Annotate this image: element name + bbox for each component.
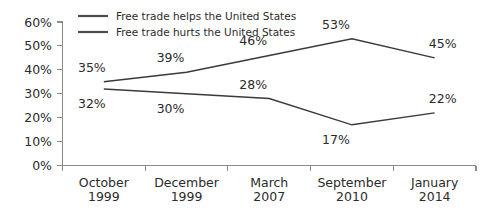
x-axis-tick-label: September [317, 175, 387, 190]
data-label: 35% [78, 60, 106, 75]
chart-legend: Free trade helps the United StatesFree t… [78, 10, 296, 38]
data-label: 22% [429, 91, 457, 106]
x-axis-tick-labels: October1999December1999March2007Septembe… [79, 175, 459, 204]
legend-label-2: Free trade hurts the United States [116, 26, 295, 38]
y-axis-tick-label: 60% [24, 15, 52, 30]
data-label: 30% [157, 101, 185, 116]
x-axis-ticks [63, 166, 477, 172]
series-lines-group [104, 39, 435, 125]
data-label: 53% [322, 17, 350, 32]
y-axis-ticks [57, 22, 63, 166]
data-label: 28% [239, 77, 267, 92]
data-label: 32% [78, 96, 106, 111]
x-axis-tick-label: 2007 [253, 189, 285, 204]
series-line-2 [104, 89, 435, 125]
x-axis-tick-label: 2014 [419, 189, 451, 204]
x-axis-tick-label: January [410, 175, 459, 190]
legend-label-1: Free trade helps the United States [116, 10, 296, 22]
x-axis-tick-label: March [250, 175, 288, 190]
line-chart: 0%10%20%30%40%50%60% October1999December… [0, 0, 502, 212]
y-axis-tick-label: 40% [24, 62, 52, 77]
x-axis-tick-label: 2010 [336, 189, 368, 204]
data-label: 39% [157, 50, 185, 65]
y-axis-tick-label: 10% [24, 134, 52, 149]
x-axis-tick-label: October [79, 175, 130, 190]
chart-canvas: 0%10%20%30%40%50%60% October1999December… [0, 0, 502, 212]
y-axis-tick-label: 0% [32, 158, 52, 173]
y-axis-tick-label: 20% [24, 110, 52, 125]
x-axis-tick-label: December [154, 175, 220, 190]
y-axis-tick-label: 30% [24, 86, 52, 101]
series-line-1 [104, 39, 435, 82]
x-axis-tick-label: 1999 [171, 189, 203, 204]
y-axis-tick-label: 50% [24, 38, 52, 53]
data-label: 45% [429, 36, 457, 51]
y-axis-tick-labels: 0%10%20%30%40%50%60% [24, 15, 52, 174]
x-axis-tick-label: 1999 [88, 189, 120, 204]
data-label: 17% [322, 132, 350, 147]
